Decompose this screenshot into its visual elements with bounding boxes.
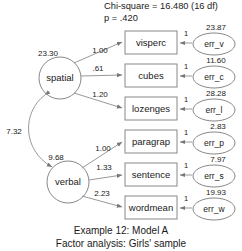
error-path-coefficient-err-v: 1 — [184, 29, 188, 38]
covariance-label: 7.32 — [6, 127, 22, 136]
loading-path-spatial-cubes — [81, 75, 122, 76]
error-path-coefficient-err-p: 1 — [184, 128, 188, 137]
latent-label-verbal: verbal — [55, 176, 81, 187]
error-variance-err-l: 28.28 — [206, 89, 227, 98]
error-variance-err-p: 2.83 — [210, 122, 226, 131]
error-node-err-l: err_l — [193, 99, 235, 121]
error-path-coefficient-err-c: 1 — [184, 62, 188, 71]
error-label-err-p: err_p — [204, 138, 224, 148]
observed-node-sentence: sentence — [125, 163, 177, 186]
error-label-err-l: err_l — [205, 105, 222, 115]
variance-label-verbal: 9.68 — [48, 153, 64, 162]
observed-label-paragrap: paragrap — [132, 136, 170, 147]
loading-label-verbal-wordmean: 2.23 — [94, 189, 110, 198]
error-variance-err-v: 23.87 — [206, 23, 227, 32]
error-node-err-w: err_w — [193, 198, 235, 220]
loading-label-spatial-lozenges: 1.20 — [92, 90, 108, 99]
error-label-err-w: err_w — [203, 204, 225, 214]
loading-label-verbal-paragrap: 1.00 — [95, 144, 111, 153]
error-variance-err-c: 11.60 — [206, 56, 226, 65]
variance-label-spatial: 23.30 — [38, 49, 59, 58]
caption-line-1: Example 12: Model A — [0, 225, 242, 238]
error-label-err-c: err_c — [204, 72, 224, 82]
error-node-err-s: err_s — [193, 165, 235, 187]
error-node-err-v: err_v — [193, 33, 235, 55]
observed-node-wordmean: wordmean — [125, 196, 177, 219]
error-path-coefficient-err-l: 1 — [184, 95, 188, 104]
observed-node-visperc: visperc — [125, 31, 177, 54]
observed-label-sentence: sentence — [132, 169, 171, 180]
observed-node-cubes: cubes — [125, 64, 177, 87]
path-diagram: spatial 23.30 verbal 9.68 7.32 visperc c… — [0, 0, 242, 251]
error-node-err-c: err_c — [193, 66, 235, 88]
observed-label-lozenges: lozenges — [132, 103, 170, 114]
error-path-coefficient-err-s: 1 — [184, 161, 188, 170]
error-variance-err-w: 19.93 — [206, 188, 227, 197]
loading-label-verbal-sentence: 1.33 — [96, 163, 112, 172]
error-variance-err-s: 7.97 — [210, 155, 226, 164]
loading-path-verbal-sentence — [89, 175, 122, 180]
caption-line-2: Factor analysis: Girls' sample — [0, 238, 242, 251]
figure-caption: Example 12: Model A Factor analysis: Gir… — [0, 225, 242, 250]
error-node-err-p: err_p — [193, 132, 235, 154]
observed-label-visperc: visperc — [136, 37, 166, 48]
error-label-err-s: err_s — [204, 171, 223, 181]
observed-label-cubes: cubes — [138, 70, 164, 81]
observed-node-lozenges: lozenges — [125, 97, 177, 120]
observed-node-paragrap: paragrap — [125, 130, 177, 153]
loading-label-spatial-visperc: 1.00 — [92, 46, 108, 55]
loading-label-spatial-cubes: .61 — [92, 64, 104, 73]
latent-label-spatial: spatial — [46, 72, 73, 83]
observed-label-wordmean: wordmean — [128, 202, 173, 213]
figure-canvas: Chi-square = 16.480 (16 df) p = .420 spa… — [0, 0, 242, 251]
error-path-coefficient-err-w: 1 — [184, 194, 188, 203]
error-label-err-v: err_v — [204, 39, 224, 49]
